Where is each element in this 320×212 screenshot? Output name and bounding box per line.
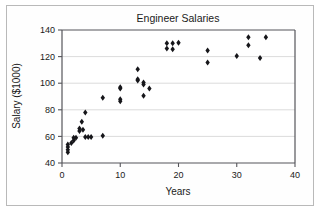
- plot-background: [62, 30, 295, 163]
- chart-title: Engineer Salaries: [137, 12, 220, 24]
- y-tick-label: 80: [45, 105, 55, 115]
- x-axis-label: Years: [165, 186, 190, 197]
- y-tick-label: 120: [40, 52, 55, 62]
- y-axis-label: Salary ($1000): [11, 63, 22, 129]
- scatter-plot: 406080100120140 010203040 Engineer Salar…: [0, 0, 320, 212]
- chart-figure: 406080100120140 010203040 Engineer Salar…: [0, 0, 320, 212]
- x-tick-label: 10: [115, 170, 125, 180]
- y-tick-label: 140: [40, 25, 55, 35]
- x-tick-label: 30: [232, 170, 242, 180]
- y-tick-label: 100: [40, 78, 55, 88]
- y-tick-label: 60: [45, 132, 55, 142]
- x-tick-labels: 010203040: [59, 170, 300, 180]
- x-tick-label: 40: [290, 170, 300, 180]
- x-tick-label: 0: [59, 170, 64, 180]
- x-tick-label: 20: [173, 170, 183, 180]
- y-tick-labels: 406080100120140: [40, 25, 55, 168]
- y-tick-label: 40: [45, 158, 55, 168]
